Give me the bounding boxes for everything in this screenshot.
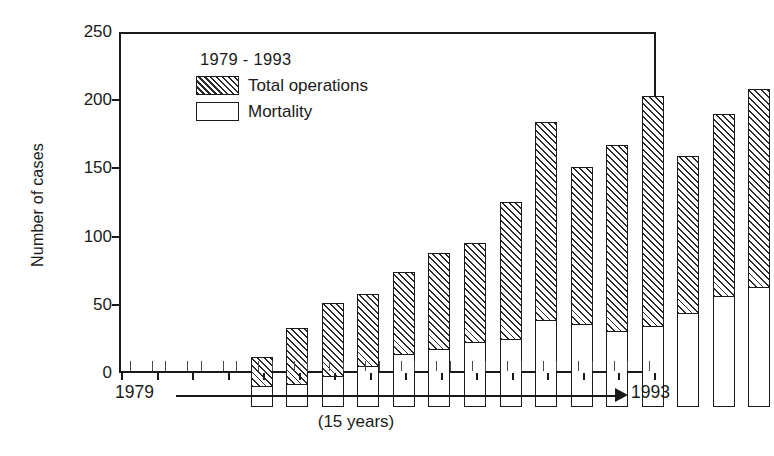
- x-axis-tick: [121, 373, 123, 380]
- x-axis-minor-tick: [485, 361, 486, 371]
- legend-swatch-plain-icon: [196, 102, 239, 121]
- bar-1986: [500, 202, 522, 407]
- legend-swatch-hatched-icon: [196, 76, 239, 95]
- legend-item-mortality: Mortality: [196, 99, 446, 124]
- x-axis-minor-tick: [258, 361, 259, 371]
- x-axis-minor-tick: [521, 361, 522, 371]
- bar-segment-total-operations: [500, 202, 522, 340]
- x-axis-minor-tick: [379, 361, 380, 371]
- x-axis-minor-tick: [201, 361, 202, 371]
- x-axis-minor-tick: [436, 361, 437, 371]
- x-axis-tick: [547, 373, 549, 380]
- x-axis-minor-tick: [592, 361, 593, 371]
- x-axis-tick: [370, 373, 372, 380]
- bar-1991: [677, 156, 699, 407]
- bar-segment-total-operations: [322, 303, 344, 377]
- x-axis-caption: (15 years): [0, 412, 712, 432]
- x-axis-tick: [228, 373, 230, 380]
- bar-segment-total-operations: [464, 243, 486, 343]
- bar-segment-mortality: [748, 288, 770, 407]
- x-axis-minor-tick: [187, 361, 188, 371]
- x-axis-minor-tick: [307, 361, 308, 371]
- x-axis-arrow-line: [176, 395, 619, 397]
- legend-label-total-operations: Total operations: [248, 77, 368, 94]
- y-axis-tick-label: 200: [32, 91, 112, 108]
- x-axis-tick: [299, 373, 301, 380]
- x-axis-range: 1979 1993: [0, 382, 712, 412]
- x-axis-minor-tick: [343, 361, 344, 371]
- x-axis-minor-tick: [294, 361, 295, 371]
- bar-segment-total-operations: [535, 122, 557, 321]
- x-axis-tick: [583, 373, 585, 380]
- x-axis-minor-tick: [329, 361, 330, 371]
- bar-segment-total-operations: [286, 328, 308, 385]
- x-axis-minor-tick: [236, 361, 237, 371]
- bar-1988: [571, 167, 593, 407]
- bar-1989: [606, 145, 628, 407]
- x-axis-minor-tick: [614, 361, 615, 371]
- x-axis-minor-tick: [414, 361, 415, 371]
- bar-segment-total-operations: [748, 89, 770, 288]
- y-axis-label: Number of cases: [29, 105, 47, 305]
- y-axis-tick-label: 250: [32, 23, 112, 40]
- bar-segment-total-operations: [642, 96, 664, 327]
- x-axis-start-year: 1979: [115, 382, 154, 403]
- x-axis-minor-tick: [223, 361, 224, 371]
- x-axis-tick: [654, 373, 656, 380]
- legend: 1979 - 1993 Total operations Mortality: [196, 50, 446, 125]
- bar-1993: [748, 89, 770, 407]
- x-axis-tick: [192, 373, 194, 380]
- bar-segment-total-operations: [357, 294, 379, 368]
- bar-segment-mortality: [713, 297, 735, 407]
- x-axis-minor-tick: [472, 361, 473, 371]
- x-axis-tick: [334, 373, 336, 380]
- bar-segment-total-operations: [606, 145, 628, 332]
- bar-segment-total-operations: [677, 156, 699, 314]
- x-axis-tick: [157, 373, 159, 380]
- x-axis-minor-tick: [401, 361, 402, 371]
- y-axis-tick-label: 100: [32, 228, 112, 245]
- x-axis-tick: [405, 373, 407, 380]
- legend-label-mortality: Mortality: [248, 103, 312, 120]
- x-axis-minor-tick: [272, 361, 273, 371]
- x-axis-minor-tick: [649, 361, 650, 371]
- x-axis-minor-tick: [165, 361, 166, 371]
- y-axis-tick-label: 0: [32, 364, 112, 381]
- bar-segment-total-operations: [571, 167, 593, 325]
- x-axis-tick: [441, 373, 443, 380]
- x-axis-minor-tick: [450, 361, 451, 371]
- bar-segment-total-operations: [428, 253, 450, 350]
- x-axis-tick: [512, 373, 514, 380]
- x-axis-minor-tick: [152, 361, 153, 371]
- x-axis-minor-tick: [130, 361, 131, 371]
- x-axis-minor-tick: [627, 361, 628, 371]
- bar-1990: [642, 96, 664, 407]
- x-axis-minor-tick: [507, 361, 508, 371]
- y-axis-tick-label: 50: [32, 296, 112, 313]
- x-axis-minor-tick: [543, 361, 544, 371]
- x-axis-tick: [476, 373, 478, 380]
- legend-item-total-operations: Total operations: [196, 73, 446, 98]
- x-axis-tick: [263, 373, 265, 380]
- x-axis-end-year: 1993: [631, 382, 670, 403]
- bar-1992: [713, 114, 735, 407]
- legend-title: 1979 - 1993: [200, 50, 446, 69]
- bar-1987: [535, 122, 557, 407]
- bar-segment-total-operations: [393, 272, 415, 355]
- x-axis-tick: [618, 373, 620, 380]
- x-axis-arrow-head-icon: [615, 388, 628, 402]
- y-axis-tick-label: 150: [32, 159, 112, 176]
- x-axis-minor-tick: [365, 361, 366, 371]
- bar-segment-total-operations: [713, 114, 735, 297]
- x-axis-minor-tick: [556, 361, 557, 371]
- x-axis-minor-tick: [578, 361, 579, 371]
